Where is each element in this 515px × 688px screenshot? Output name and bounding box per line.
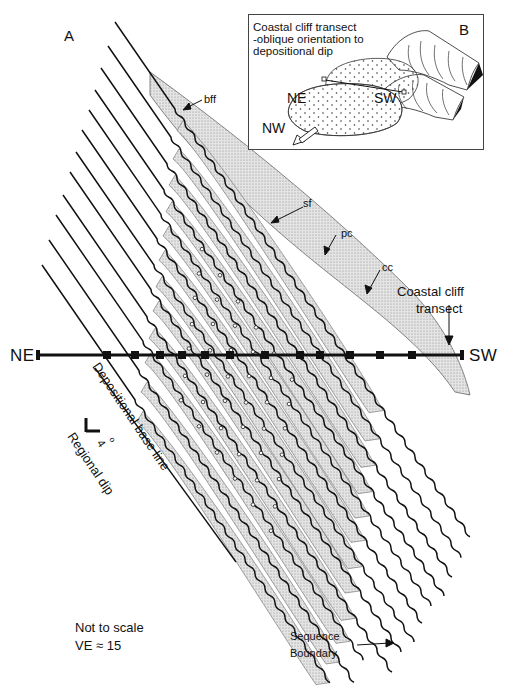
cobble-marker [255, 479, 259, 483]
inset-ne-label: NE [287, 91, 306, 105]
cobble-marker [277, 477, 281, 481]
cobble-marker [237, 452, 241, 456]
regional-dip-symbol [86, 418, 100, 432]
transect-intersection-marker [131, 351, 139, 359]
bff-label: bff [204, 94, 216, 105]
cobble-marker [200, 247, 204, 251]
transect-intersection-marker [296, 351, 304, 359]
transect-intersection-marker [261, 351, 269, 359]
cobble-marker [183, 374, 187, 378]
cobble-marker [283, 427, 287, 431]
cobble-marker [280, 453, 284, 457]
transect-intersection-marker [316, 351, 324, 359]
cobble-marker [287, 402, 291, 406]
cobble-marker [265, 400, 269, 404]
transect-intersection-marker [201, 351, 209, 359]
cobble-marker [218, 273, 222, 277]
cobble-marker [197, 425, 201, 429]
cobble-marker [226, 375, 230, 379]
transect-intersection-marker [178, 351, 186, 359]
sequence-boundary-label-2: Boundary [290, 648, 337, 659]
transect-intersection-marker [346, 351, 354, 359]
transect-intersection-marker [376, 351, 384, 359]
cobble-marker [211, 322, 215, 326]
cobble-marker [197, 272, 201, 276]
cobble-marker [251, 350, 255, 354]
transect-intersection-marker [226, 351, 234, 359]
cobble-marker [179, 398, 183, 402]
cobble-marker [201, 400, 205, 404]
cobble-marker [269, 529, 273, 533]
transect-intersection-marker [103, 351, 111, 359]
cobble-marker [233, 477, 237, 481]
cobble-marker [290, 378, 294, 382]
inset-sw-label: SW [374, 91, 397, 105]
cobble-marker [244, 401, 248, 405]
cobble-marker [269, 376, 273, 380]
cobble-marker [247, 374, 251, 378]
cobble-marker [254, 326, 258, 330]
sw-label: SW [469, 347, 497, 364]
cc-label: cc [382, 262, 393, 273]
sf-label: sf [303, 198, 312, 209]
cobble-marker [273, 505, 277, 509]
cobble-marker [187, 347, 191, 351]
cobble-marker [259, 451, 263, 455]
vertical-exaggeration-label: VE ≈ 15 [75, 639, 121, 652]
inset-nw-label: NW [262, 121, 285, 135]
cobble-marker [205, 373, 209, 377]
cobble-marker [233, 324, 237, 328]
sequence-boundary-label-1: Sequence [290, 631, 340, 642]
cobble-marker [215, 298, 219, 302]
cobble-marker [262, 427, 266, 431]
not-to-scale-label: Not to scale [75, 621, 144, 634]
ne-label: NE [10, 347, 35, 364]
inset-panel-b: Coastal cliff transect -oblique orientat… [248, 14, 484, 150]
cobble-marker [251, 503, 255, 507]
cobble-marker [215, 451, 219, 455]
cobble-marker [219, 426, 223, 430]
cobble-marker [223, 399, 227, 403]
coastal-cliff-transect-label-2: transect [416, 302, 462, 315]
transect-intersection-marker [408, 351, 416, 359]
transect-intersection-marker [156, 351, 164, 359]
cobble-marker [236, 300, 240, 304]
cobble-marker [193, 296, 197, 300]
coastal-cliff-transect-label-1: Coastal cliff [397, 285, 464, 298]
cobble-marker [241, 425, 245, 429]
pc-label: pc [341, 228, 353, 239]
panel-a-label: A [64, 28, 74, 43]
cobble-marker [190, 322, 194, 326]
